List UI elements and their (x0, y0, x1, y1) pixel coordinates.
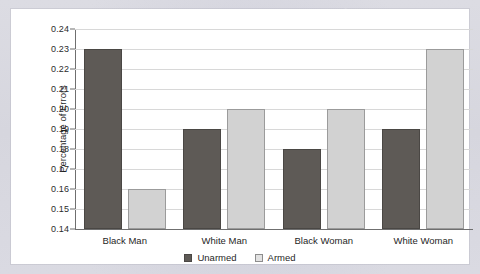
bar-group-black-woman (274, 29, 374, 229)
legend-item-unarmed: Unarmed (184, 252, 236, 263)
chart-panel: Percentage of Errors 0.24 0.23 0.22 0.21… (11, 9, 469, 264)
legend-swatch-icon (184, 254, 192, 262)
legend-label: Unarmed (197, 252, 236, 263)
bar-unarmed-white-woman (382, 129, 420, 229)
x-axis-category-labels: Black Man White Man Black Woman White Wo… (75, 235, 473, 246)
bar-armed-white-woman (426, 49, 464, 229)
chart-legend: Unarmed Armed (11, 252, 469, 263)
bar-unarmed-black-woman (283, 149, 321, 229)
x-tick-label: Black Woman (274, 235, 374, 246)
y-axis-tick-marks (11, 29, 75, 229)
bar-unarmed-white-man (183, 129, 221, 229)
bar-groups (75, 29, 473, 229)
plot-area (75, 29, 473, 229)
bar-armed-black-woman (327, 109, 365, 229)
x-tick-label: Black Man (75, 235, 175, 246)
x-tick-label: White Woman (374, 235, 474, 246)
bar-group-black-man (75, 29, 175, 229)
bar-group-white-man (175, 29, 275, 229)
bar-armed-white-man (227, 109, 265, 229)
bar-unarmed-black-man (84, 49, 122, 229)
legend-swatch-icon (255, 254, 263, 262)
bar-group-white-woman (374, 29, 474, 229)
bar-armed-black-man (128, 189, 166, 229)
legend-label: Armed (268, 252, 296, 263)
legend-item-armed: Armed (255, 252, 296, 263)
x-tick-label: White Man (175, 235, 275, 246)
axis-baseline (75, 229, 473, 230)
page-background: Percentage of Errors 0.24 0.23 0.22 0.21… (0, 0, 480, 274)
